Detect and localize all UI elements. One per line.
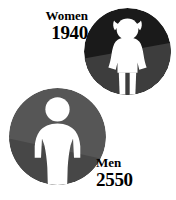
men-label-group: Men 2550 bbox=[96, 156, 168, 189]
men-badge bbox=[9, 88, 106, 185]
women-label-group: Women 1940 bbox=[16, 9, 88, 42]
women-badge bbox=[84, 8, 171, 95]
women-value: 1940 bbox=[16, 23, 88, 42]
men-value: 2550 bbox=[96, 170, 168, 189]
gender-pictogram-infographic: Women 1940 M bbox=[0, 0, 176, 200]
women-caption: Women bbox=[16, 9, 88, 22]
men-caption: Men bbox=[96, 156, 168, 169]
